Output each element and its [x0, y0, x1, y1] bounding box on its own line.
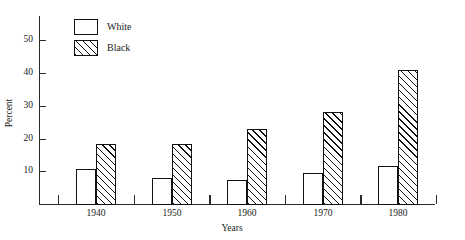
y-tick-mark	[40, 106, 46, 107]
bar-white-1980	[378, 166, 398, 205]
y-tick-label: 10	[5, 166, 33, 176]
x-tick-label: 1940	[66, 208, 126, 218]
y-tick-label: 50	[5, 35, 33, 45]
x-tick-mark	[210, 195, 211, 204]
bar-chart: White Black Percent Years 10203040501940…	[0, 0, 465, 240]
bar-black-1970	[323, 112, 343, 205]
bar-black-1980	[398, 70, 418, 205]
x-tick-mark	[360, 195, 361, 204]
x-tick-label: 1960	[217, 208, 277, 218]
x-tick-label: 1950	[142, 208, 202, 218]
bar-white-1950	[152, 178, 172, 205]
x-tick-mark	[436, 195, 437, 204]
y-tick-mark	[40, 171, 46, 172]
bar-black-1950	[172, 144, 192, 205]
y-tick-mark	[40, 139, 46, 140]
legend-swatch-black-icon	[74, 40, 98, 56]
bar-white-1940	[76, 169, 96, 205]
y-tick-mark	[40, 73, 46, 74]
bar-white-1970	[303, 173, 323, 205]
y-tick-label: 40	[5, 68, 33, 78]
bar-black-1940	[96, 144, 116, 205]
legend-swatch-white-icon	[74, 19, 98, 35]
x-tick-label: 1970	[293, 208, 353, 218]
x-tick-mark	[58, 195, 59, 204]
legend-label-black: Black	[107, 42, 130, 53]
y-tick-mark	[40, 40, 46, 41]
x-tick-mark	[209, 195, 210, 204]
y-axis-line	[39, 16, 40, 204]
bar-black-1960	[247, 129, 267, 205]
bar-white-1960	[227, 180, 247, 205]
x-tick-mark	[361, 195, 362, 204]
y-tick-label: 20	[5, 134, 33, 144]
y-tick-label: 30	[5, 101, 33, 111]
x-axis-title: Years	[202, 223, 262, 233]
x-tick-mark	[134, 195, 135, 204]
x-tick-mark	[285, 195, 286, 204]
legend-label-white: White	[107, 21, 131, 32]
x-tick-label: 1980	[368, 208, 428, 218]
